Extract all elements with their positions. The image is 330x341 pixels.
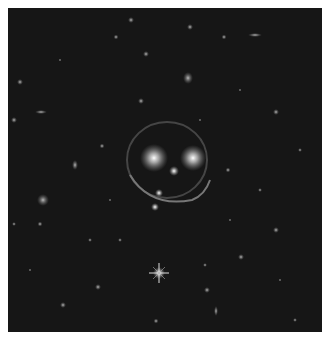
space-image bbox=[8, 8, 322, 332]
galaxy-cluster-image bbox=[8, 8, 322, 332]
